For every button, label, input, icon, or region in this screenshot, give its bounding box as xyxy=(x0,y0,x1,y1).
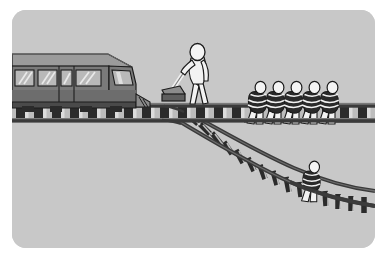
scene-canvas xyxy=(12,10,375,248)
illustration-stage xyxy=(0,0,387,258)
near-rail-overlay-highlight xyxy=(244,118,375,119)
trolley-problem-scene xyxy=(12,10,375,248)
